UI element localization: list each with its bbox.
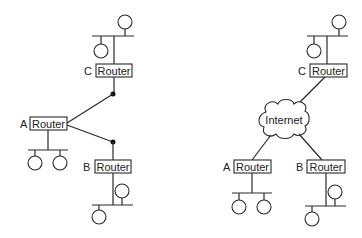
router-b-id: B xyxy=(296,161,303,173)
link-internet-b xyxy=(299,134,322,160)
router-a-lan xyxy=(232,173,272,214)
router-c: C Router xyxy=(84,64,132,77)
router-b-lan xyxy=(92,173,133,224)
host-icon xyxy=(28,156,42,170)
link-a-b xyxy=(67,125,113,142)
router-c-label: Router xyxy=(97,65,130,77)
router-a-id: A xyxy=(223,161,231,173)
router-b-id: B xyxy=(83,161,90,173)
host-icon xyxy=(94,44,108,58)
host-icon xyxy=(53,156,67,170)
router-b: B Router xyxy=(83,160,131,173)
router-c-lan xyxy=(307,15,348,64)
link-a-c xyxy=(67,94,113,123)
host-icon xyxy=(307,44,321,58)
host-icon xyxy=(328,185,342,199)
left-diagram: C Router A Router B Router xyxy=(20,15,134,224)
internet-cloud: Internet xyxy=(259,100,309,139)
network-diagram: C Router A Router B Router xyxy=(0,0,362,238)
host-icon xyxy=(257,200,271,214)
router-a: A Router xyxy=(223,160,271,173)
router-a-lan xyxy=(28,130,68,170)
host-icon xyxy=(305,212,319,226)
router-c-id: C xyxy=(84,65,92,77)
router-b-label: Router xyxy=(96,161,129,173)
router-b-label: Router xyxy=(309,161,342,173)
router-c-lan xyxy=(92,15,134,64)
host-icon xyxy=(115,184,129,198)
right-diagram: C Router Internet A Router xyxy=(223,15,348,226)
router-a-id: A xyxy=(20,118,28,130)
host-icon xyxy=(232,200,246,214)
router-c: C Router xyxy=(298,64,347,77)
host-icon xyxy=(332,15,346,29)
internet-label: Internet xyxy=(265,114,302,126)
router-a: A Router xyxy=(20,117,67,130)
router-a-label: Router xyxy=(32,118,65,130)
router-c-id: C xyxy=(298,65,306,77)
router-b-lan xyxy=(305,173,346,226)
router-c-label: Router xyxy=(312,65,345,77)
host-icon xyxy=(92,210,106,224)
link-internet-a xyxy=(252,135,271,160)
router-b: B Router xyxy=(296,160,345,173)
router-a-label: Router xyxy=(236,161,269,173)
host-icon xyxy=(118,15,132,29)
